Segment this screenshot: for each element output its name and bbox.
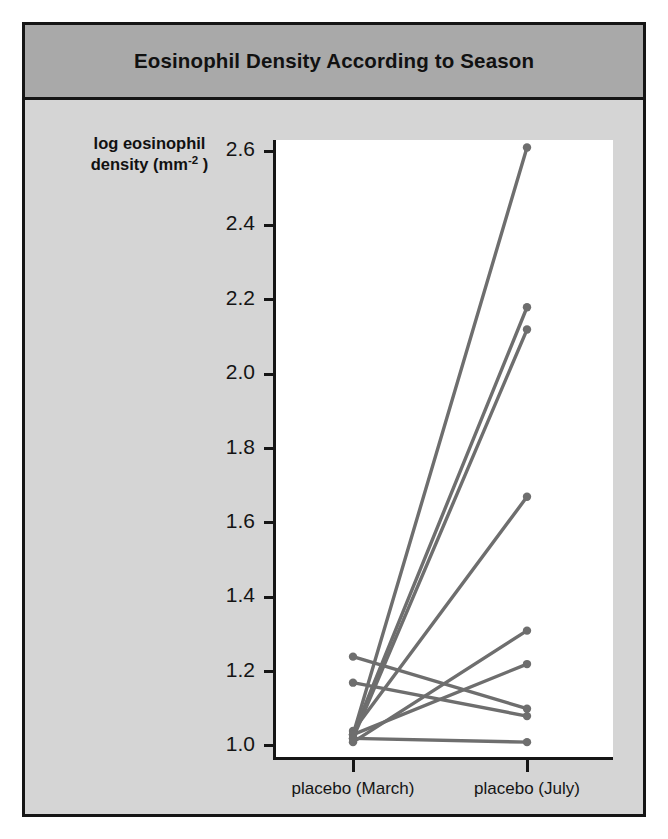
- data-point-marker: [349, 652, 357, 660]
- data-point-marker: [523, 738, 531, 746]
- data-point-marker: [523, 493, 531, 501]
- data-point-marker: [523, 143, 531, 151]
- data-point-marker: [523, 704, 531, 712]
- data-point-marker: [523, 626, 531, 634]
- data-point-marker: [349, 678, 357, 686]
- data-point-marker: [523, 660, 531, 668]
- data-series-layer: [25, 25, 649, 820]
- data-point-marker: [523, 325, 531, 333]
- data-point-marker: [349, 734, 357, 742]
- series-line: [353, 307, 527, 734]
- series-line: [353, 738, 527, 742]
- data-point-marker: [523, 712, 531, 720]
- data-point-marker: [523, 303, 531, 311]
- figure-panel: Eosinophil Density According to Season l…: [22, 22, 646, 817]
